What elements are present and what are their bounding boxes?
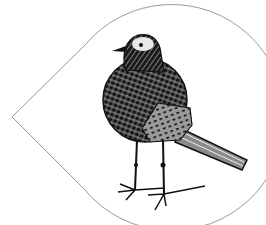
illustration (0, 0, 266, 225)
